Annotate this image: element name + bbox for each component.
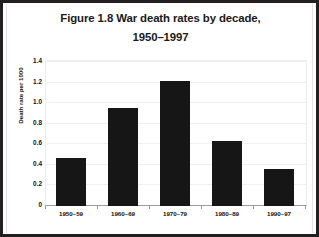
- y-axis-tick-label: 1.0: [12, 98, 42, 105]
- x-axis-tick-label: 1990–97: [267, 210, 291, 217]
- bar: [212, 141, 242, 206]
- x-axis-tick-mark: [45, 206, 46, 209]
- bar: [160, 81, 190, 206]
- bar: [56, 158, 86, 206]
- y-axis-tick-label: 0.4: [12, 159, 42, 166]
- bar-slot: [45, 60, 97, 206]
- y-axis-tick-label: 0: [12, 201, 42, 208]
- y-axis-tick-label: 0.8: [12, 118, 42, 125]
- bar-slot: [149, 60, 201, 206]
- x-axis-tick-mark: [253, 206, 254, 209]
- chart-title: Figure 1.8 War death rates by decade, 19…: [17, 9, 304, 47]
- y-axis-tick-label: 1.4: [12, 57, 42, 64]
- bar-slot: [97, 60, 149, 206]
- y-axis-tick-label: 0.2: [12, 180, 42, 187]
- x-axis-tick-label: 1960–69: [111, 210, 135, 217]
- x-axis-tick-mark: [201, 206, 202, 209]
- bar-series: [45, 60, 307, 206]
- bar-slot: [253, 60, 305, 206]
- bar: [108, 108, 138, 206]
- x-axis-tick-mark: [305, 206, 306, 209]
- x-axis-tick-mark: [97, 206, 98, 209]
- bar-slot: [201, 60, 253, 206]
- figure-container: Figure 1.8 War death rates by decade, 19…: [0, 0, 319, 237]
- x-axis-tick-label: 1970–79: [163, 210, 187, 217]
- x-axis-tick-label: 1980–89: [215, 210, 239, 217]
- y-axis-tick-labels: 1.41.21.00.80.60.40.20: [10, 60, 42, 206]
- bar: [264, 169, 294, 206]
- x-axis-tick-labels: 1950–591960–691970–791980–891990–97: [45, 210, 307, 224]
- y-axis-tick-label: 1.2: [12, 77, 42, 84]
- x-axis-tick-mark: [149, 206, 150, 209]
- chart-card: Figure 1.8 War death rates by decade, 19…: [6, 4, 313, 233]
- y-axis-tick-label: 0.6: [12, 139, 42, 146]
- x-axis-tick-label: 1950–59: [59, 210, 83, 217]
- chart-title-line-2: 1950–1997: [17, 28, 304, 47]
- chart-title-line-1: Figure 1.8 War death rates by decade,: [17, 9, 304, 28]
